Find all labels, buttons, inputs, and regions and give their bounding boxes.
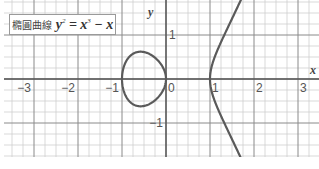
chart-title: 橢圓曲線 y2 = x3 − x	[9, 14, 116, 35]
eq-rhs-rest: − x	[91, 17, 113, 32]
x-tick-label: −1	[105, 81, 119, 95]
x-tick-label: 3	[300, 81, 307, 95]
x-tick-label: 1	[212, 81, 219, 95]
x-axis-label: x	[309, 63, 316, 77]
eq-equals: =	[65, 17, 80, 32]
x-tick-label: 2	[256, 81, 263, 95]
x-tick-label: 0	[168, 81, 175, 95]
title-prefix: 橢圓曲線	[12, 17, 52, 32]
x-tick-label: −3	[17, 81, 31, 95]
x-tick-label: −2	[61, 81, 75, 95]
y-axis-label: y	[146, 5, 154, 19]
title-equation: y2 = x3 − x	[56, 17, 114, 33]
y-tick-label: 1	[169, 28, 176, 42]
y-tick-label: −1	[149, 116, 163, 130]
